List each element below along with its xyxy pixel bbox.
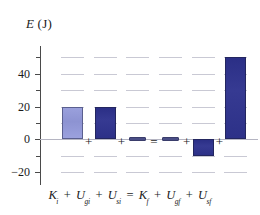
y-axis-symbol: E [26, 16, 34, 31]
gridline-segment [126, 90, 149, 91]
gridline-segment [61, 172, 84, 173]
operator-plus: + [85, 134, 92, 150]
gridline-segment [159, 123, 182, 124]
equation-term-rhs-0: Kf [138, 188, 149, 202]
gridline-segment [192, 107, 215, 108]
gridline-segment [126, 107, 149, 108]
gridline-segment [159, 156, 182, 157]
operator-plus: + [216, 134, 223, 150]
y-axis-spine [40, 46, 41, 185]
energy-bar-chart: E (J) −2002040 ++=++ Ki + Ugi + Usi = Kf… [0, 0, 260, 215]
y-tick-label-0: 0 [24, 132, 30, 147]
y-tick-20: 20 [35, 107, 41, 108]
equation-term-lhs-1: Ugi [75, 188, 90, 202]
term-symbol: U [198, 188, 207, 202]
gridline-segment [61, 57, 84, 58]
bar-U_gi [95, 107, 116, 140]
equation-term-lhs-2: Usi [107, 188, 122, 202]
equation-plus: + [149, 188, 165, 202]
term-symbol: U [166, 188, 175, 202]
gridline-segment [192, 172, 215, 173]
y-minor-tick--10 [36, 156, 41, 157]
term-subscript: f [147, 197, 149, 206]
gridline-segment [192, 74, 215, 75]
gridline-segment [126, 74, 149, 75]
term-subscript: si [116, 197, 121, 206]
term-subscript: gi [84, 197, 89, 206]
y-tick-label-20: 20 [18, 99, 30, 114]
equation-caption: Ki + Ugi + Usi = Kf + Ugf + Usf [0, 188, 260, 205]
gridline-segment [126, 156, 149, 157]
y-tick-40: 40 [35, 74, 41, 75]
y-tick-label-40: 40 [18, 66, 30, 81]
gridline-segment [159, 74, 182, 75]
y-minor-tick-10 [36, 123, 41, 124]
gridline-segment [94, 172, 117, 173]
bar-K_f [162, 137, 179, 141]
equation-plus: + [59, 188, 75, 202]
equation-plus: + [91, 188, 107, 202]
term-symbol: K [139, 188, 147, 202]
gridline-segment [94, 74, 117, 75]
term-subscript: gf [175, 197, 180, 206]
gridline-segment [94, 156, 117, 157]
gridline-segment [159, 107, 182, 108]
y-axis-unit: (J) [38, 16, 52, 31]
gridline-segment [159, 90, 182, 91]
gridline-segment [61, 156, 84, 157]
equation-plus: + [181, 188, 197, 202]
gridline-segment [192, 123, 215, 124]
bar-U_sf [225, 57, 246, 139]
gridline-segment [126, 123, 149, 124]
y-minor-tick-50 [36, 57, 41, 58]
term-subscript: i [56, 197, 58, 206]
gridline-segment [126, 172, 149, 173]
gridline-segment [224, 156, 247, 157]
equation-term-lhs-0: Ki [48, 188, 59, 202]
equation-term-rhs-2: Usf [197, 188, 212, 202]
gridline-segment [61, 74, 84, 75]
bar-U_gf [193, 139, 214, 155]
bar-U_si [129, 137, 146, 141]
y-tick-label--20: −20 [11, 164, 30, 179]
operator-plus: + [118, 134, 125, 150]
gridline-segment [94, 57, 117, 58]
gridline-segment [159, 172, 182, 173]
gridline-segment [192, 90, 215, 91]
operator-equals: = [150, 134, 157, 150]
gridline-segment [224, 172, 247, 173]
equation-term-rhs-1: Ugf [166, 188, 181, 202]
y-tick--20: −20 [35, 172, 41, 173]
y-minor-tick-30 [36, 90, 41, 91]
gridline-segment [192, 156, 215, 157]
term-subscript: sf [207, 197, 212, 206]
operator-plus: + [183, 134, 190, 150]
equation-equals: = [122, 188, 138, 202]
gridline-segment [61, 90, 84, 91]
gridline-segment [126, 57, 149, 58]
plot-area: −2002040 ++=++ [40, 46, 258, 185]
bar-K_i [62, 107, 83, 140]
gridline-segment [159, 57, 182, 58]
y-axis-title: E (J) [26, 16, 52, 32]
gridline-segment [94, 90, 117, 91]
gridline-segment [192, 57, 215, 58]
zero-baseline [40, 139, 258, 140]
